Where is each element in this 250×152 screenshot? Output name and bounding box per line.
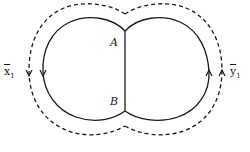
point-b-label: B bbox=[110, 96, 118, 107]
left-path-label: x1 bbox=[4, 66, 15, 80]
right-solid-arc bbox=[125, 18, 209, 121]
right-path-subscript: 1 bbox=[236, 72, 240, 80]
outer-dashed-right bbox=[125, 4, 222, 135]
diagram-canvas: A B x1 y1 bbox=[0, 0, 250, 152]
left-path-subscript: 1 bbox=[10, 72, 14, 80]
right-path-label: y1 bbox=[230, 66, 241, 80]
point-a-label: A bbox=[110, 37, 118, 48]
contour-diagram bbox=[0, 0, 250, 152]
